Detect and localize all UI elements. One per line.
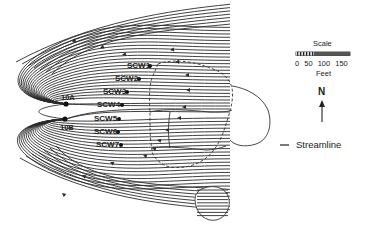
well-label-scw5: SCW5 — [94, 115, 117, 123]
north-label: N — [318, 87, 325, 97]
extraction-well-10a — [63, 101, 68, 106]
well-label-scw4: SCW4 — [97, 101, 120, 109]
scale-unit: Feet — [316, 70, 331, 78]
well-label-scw6: SCW6 — [94, 128, 117, 136]
streamlines — [16, 4, 230, 210]
well-label-scw7: SCW7 — [96, 141, 119, 149]
scale-title: Scale — [313, 40, 332, 48]
well-label-scw1: SCW1 — [127, 62, 150, 70]
well-label-scw2: SCW2 — [115, 75, 138, 83]
legend-streamline-label: Streamline — [296, 140, 341, 150]
well-marker-scw5 — [117, 117, 121, 121]
extraction-well-10b — [62, 116, 67, 121]
plume-divider-3 — [169, 112, 171, 148]
scale-bar — [296, 52, 350, 56]
well-label-10a: 10A — [61, 94, 75, 102]
north-arrow-icon — [319, 100, 325, 122]
well-label-scw3: SCW3 — [103, 88, 126, 96]
scale-tick-labels: 0 50 100 150 — [295, 60, 348, 68]
well-marker-scw7 — [119, 143, 123, 147]
well-marker-scw4 — [120, 103, 124, 107]
streamline-diagram — [0, 0, 366, 231]
plume-outline-large — [230, 84, 270, 146]
well-label-10b: 10B — [60, 124, 74, 132]
